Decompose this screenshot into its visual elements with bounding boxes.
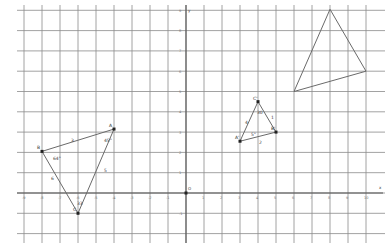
x-tick-label: -1	[166, 196, 170, 200]
x-tick-label: 3	[238, 196, 240, 200]
side-label: 1	[271, 115, 274, 120]
vertex-label: C'	[253, 96, 257, 101]
side-label: 2	[259, 140, 262, 145]
x-tick-label: 8	[328, 196, 330, 200]
x-tick-label: -2	[148, 196, 152, 200]
side-label: 3	[71, 138, 74, 143]
x-tick-label: -4	[112, 196, 116, 200]
vertex-point	[113, 128, 116, 131]
x-tick-label: -9	[22, 196, 26, 200]
angle-label: 33	[77, 201, 83, 206]
x-tick-label: 4	[256, 196, 259, 200]
angle-label: 45°	[104, 138, 112, 143]
y-tick-label: 2	[179, 151, 181, 155]
vertex-label: B'	[271, 126, 275, 131]
x-tick-label: -6	[76, 196, 80, 200]
vertex-point	[77, 212, 80, 215]
y-tick-label: 6	[179, 70, 181, 74]
angle-label: 5°	[251, 132, 256, 137]
x-tick-label: 1	[202, 196, 204, 200]
side-label: 6	[51, 176, 54, 181]
origin-label: O	[188, 186, 191, 191]
y-tick-label: 9	[179, 9, 181, 13]
x-tick-label: -8	[40, 196, 44, 200]
vertex-label: B	[37, 145, 40, 150]
y-tick-label: 7	[179, 49, 181, 53]
angle-label: 30	[257, 110, 263, 115]
origin-point	[185, 192, 188, 195]
side-label: 5	[104, 168, 107, 173]
axes: xyO	[17, 5, 383, 243]
y-tick-label: 5	[179, 90, 181, 94]
vertex-label: C	[73, 207, 76, 212]
y-tick-label: 4	[179, 110, 182, 114]
y-tick-label: -1	[179, 212, 183, 216]
x-tick-label: 9	[346, 196, 348, 200]
x-tick-label: -7	[58, 196, 62, 200]
x-tick-label: 2	[220, 196, 222, 200]
vertex-label: A	[109, 123, 113, 128]
y-tick-label: 1	[179, 171, 181, 175]
vertex-label: A'	[235, 135, 239, 140]
x-tick-label: 7	[310, 196, 312, 200]
angle-label: 64°	[53, 156, 61, 161]
x-tick-label: 10	[364, 196, 368, 200]
x-tick-label: -5	[94, 196, 98, 200]
side-label: 4	[245, 120, 248, 125]
x-tick-label: -3	[130, 196, 134, 200]
coordinate-grid-diagram: xyO -9-8-7-6-5-4-3-2-112345678910-112345…	[0, 0, 387, 243]
y-tick-label: 8	[179, 29, 181, 33]
vertex-point	[41, 150, 44, 153]
x-tick-label: 5	[274, 196, 276, 200]
x-axis-label: x	[379, 185, 382, 190]
y-tick-label: 3	[179, 131, 181, 135]
x-tick-label: 6	[292, 196, 294, 200]
